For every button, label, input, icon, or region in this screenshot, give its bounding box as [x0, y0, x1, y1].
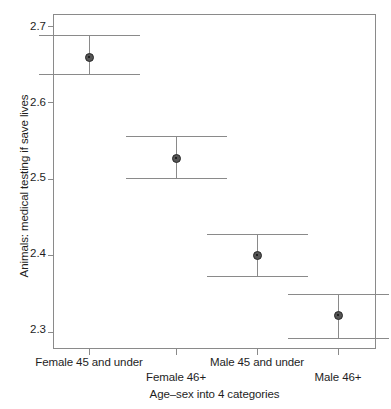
x-tick-label-female-46-plus: Female 46+	[146, 371, 206, 383]
x-tick-mark-female-46-plus	[176, 349, 177, 355]
x-tick-mark-male-45-and-under	[257, 349, 258, 355]
errorbar-cap-upper	[288, 294, 389, 295]
errorbar-cap-upper	[39, 35, 140, 36]
y-tick-label-2-4: 2.4	[0, 247, 46, 259]
plot-area	[53, 14, 376, 349]
x-axis-title: Age–sex into 4 categories	[53, 388, 376, 400]
data-point	[253, 251, 262, 260]
y-tick-label-2-3: 2.3	[0, 323, 46, 335]
y-tick-label-2-7: 2.7	[0, 20, 46, 32]
chart-container: Animals: medical testing if save lives 2…	[0, 0, 391, 409]
x-tick-label-male-45-and-under: Male 45 and under	[210, 356, 304, 368]
y-tick-label-2-5: 2.5	[0, 171, 46, 183]
x-tick-mark-male-46-plus	[338, 349, 339, 355]
x-tick-label-female-45-and-under: Female 45 and under	[35, 356, 142, 368]
errorbar-cap-upper	[207, 234, 308, 235]
y-tick-label-2-6: 2.6	[0, 96, 46, 108]
errorbar-cap-lower	[207, 276, 308, 277]
x-tick-label-male-46-plus: Male 46+	[315, 371, 362, 383]
errorbar-cap-lower	[39, 74, 140, 75]
errorbar-cap-lower	[288, 338, 389, 339]
x-tick-mark-female-45-and-under	[89, 349, 90, 355]
y-axis-title: Animals: medical testing if save lives	[18, 19, 34, 354]
data-point	[334, 311, 343, 320]
data-point	[85, 53, 94, 62]
errorbar-cap-lower	[126, 178, 227, 179]
errorbar-cap-upper	[126, 136, 227, 137]
data-point	[172, 154, 181, 163]
